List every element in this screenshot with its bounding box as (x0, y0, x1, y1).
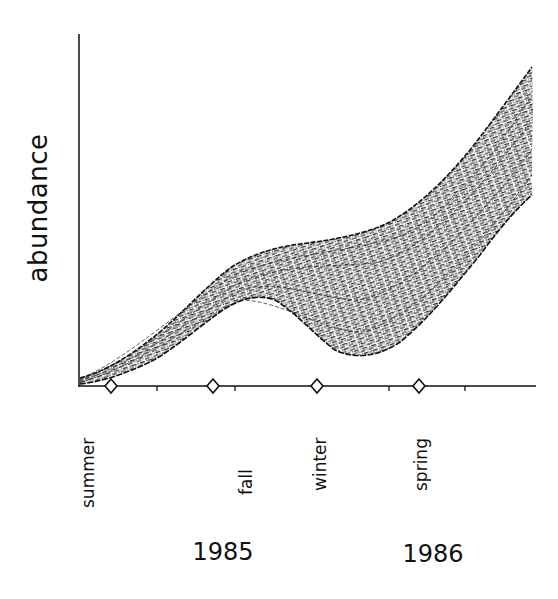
season-text: winter (310, 437, 330, 491)
diamond-marker-icon (207, 379, 219, 393)
diamond-marker-icon (105, 379, 117, 393)
y-axis-label-text: abundance (23, 133, 53, 282)
season-text: fall (236, 469, 256, 495)
band-texture (80, 67, 533, 384)
year-label-1986: 1986 (402, 540, 463, 568)
season-text: spring (411, 438, 431, 491)
diamond-marker-icon (311, 379, 323, 393)
year-label-1985: 1985 (192, 538, 253, 566)
trajectory-band (80, 67, 533, 384)
diamond-marker-icon (413, 379, 425, 393)
chart-canvas (0, 0, 558, 599)
season-text: summer (78, 438, 98, 508)
